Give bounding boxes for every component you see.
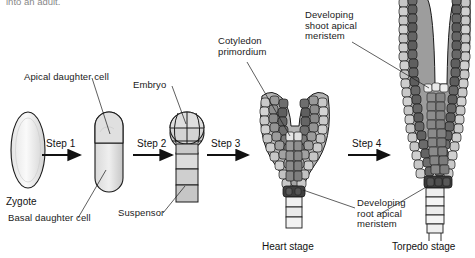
heart-suspensor xyxy=(286,197,302,228)
step-1-label: Step 1 xyxy=(46,138,76,149)
caption-zygote: Zygote xyxy=(6,196,37,207)
heart-central-axis-cells xyxy=(286,132,302,181)
step-3-label: Step 3 xyxy=(211,138,241,149)
root-apical-meristem-leader xyxy=(303,190,355,208)
two-celled-embryo-figure xyxy=(95,112,123,192)
caption-torpedo: Torpedo stage xyxy=(392,241,455,252)
label-apical-daughter-cell: Apical daughter cell xyxy=(24,72,109,83)
step-4-label: Step 4 xyxy=(352,138,382,149)
torpedo-stage-figure xyxy=(399,0,470,241)
embryogenesis-diagram: into an adult. xyxy=(0,0,475,258)
caption-heart: Heart stage xyxy=(262,241,314,252)
heart-root-apical-meristem xyxy=(283,186,305,197)
heart-stage-figure xyxy=(260,92,329,228)
basal-daughter-cell-leader xyxy=(78,170,106,218)
step-2-label: Step 2 xyxy=(137,138,167,149)
label-shoot-apical-meristem: Developing shoot apical meristem xyxy=(305,10,357,42)
label-suspensor: Suspensor xyxy=(118,208,164,219)
zygote-figure xyxy=(11,112,45,188)
label-basal-daughter-cell: Basal daughter cell xyxy=(8,213,91,224)
torpedo-root-apical-meristem xyxy=(424,176,452,188)
globular-embryo-figure xyxy=(170,112,204,202)
label-embryo: Embryo xyxy=(133,80,166,91)
label-cotyledon-primordium: Cotyledon primordium xyxy=(218,36,267,57)
suspensor-column xyxy=(176,153,198,202)
torpedo-suspensor xyxy=(426,188,444,241)
label-root-apical-meristem: Developing root apical meristem xyxy=(357,198,406,230)
